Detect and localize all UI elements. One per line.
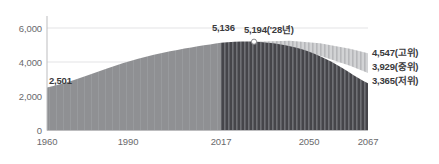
label-start-2501: 2,501 <box>49 75 72 86</box>
label-peak-5194: 5,194('28년) <box>244 22 294 36</box>
label-high-4547: 4,547(고위) <box>372 45 418 59</box>
y-tick-4000: 4,000 <box>4 57 42 68</box>
x-tick-2050: 2050 <box>289 136 329 147</box>
x-tick-1990: 1990 <box>108 136 148 147</box>
historical-area <box>47 43 221 130</box>
label-medium-3929: 3,929(중위) <box>372 59 418 73</box>
x-tick-2067: 2067 <box>348 136 388 147</box>
y-tick-2000: 2,000 <box>4 91 42 102</box>
y-tick-0: 0 <box>4 125 42 136</box>
y-tick-6000: 6,000 <box>4 23 42 34</box>
label-boundary-5136: 5,136 <box>212 22 235 33</box>
label-low-3365: 3,365(저위) <box>372 73 418 87</box>
x-tick-2017: 2017 <box>201 136 241 147</box>
peak-marker-icon <box>251 39 256 44</box>
x-tick-1960: 1960 <box>27 136 67 147</box>
population-projection-chart: 6,000 4,000 2,000 0 1960 1990 2017 2050 … <box>0 0 439 164</box>
